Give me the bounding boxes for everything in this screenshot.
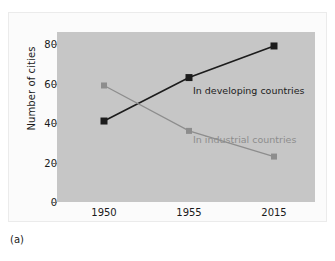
data-point-marker	[101, 118, 108, 125]
data-point-marker	[186, 74, 193, 81]
data-point-marker	[186, 128, 192, 134]
data-point-marker	[101, 82, 107, 88]
x-tick-label: 1955	[176, 207, 201, 218]
series-annotation-developing: In developing countries	[193, 85, 305, 96]
figure-caption: (a)	[10, 234, 24, 245]
series-annotation-industrial: In industrial countries	[193, 134, 296, 145]
line-chart: Number of cities 0 20 40 60 80 In develo…	[9, 13, 328, 223]
series-line-developing	[104, 46, 274, 121]
series-plot-layer	[9, 13, 328, 223]
figure-panel: Number of cities 0 20 40 60 80 In develo…	[8, 12, 327, 222]
x-tick-label: 1950	[91, 207, 116, 218]
series-line-industrial	[104, 85, 274, 156]
data-point-marker	[271, 42, 278, 49]
x-tick-label: 2015	[261, 207, 286, 218]
data-point-marker	[271, 154, 277, 160]
